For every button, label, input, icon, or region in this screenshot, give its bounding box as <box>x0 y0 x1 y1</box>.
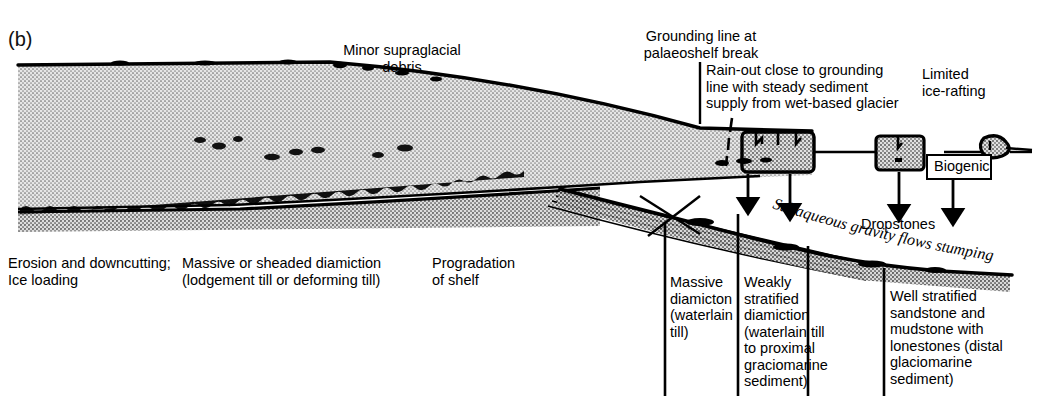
iceberg-mid <box>876 136 924 170</box>
label-biogenic: Biogenic <box>934 158 990 175</box>
facies-column-well-stratified: Well stratified sandstone and mudstone w… <box>890 288 1040 387</box>
figure-canvas: Subaqueous gravity flows stumping (b) Mi… <box>0 0 1043 420</box>
label-erosion-downcutting: Erosion and downcutting; Ice loading <box>8 255 171 288</box>
facies-column-weakly-stratified: Weakly stratified diamiction (waterlain … <box>744 274 814 390</box>
label-rainout: Rain-out close to grounding line with st… <box>706 62 899 112</box>
label-dropstones: Dropstones <box>861 216 935 233</box>
label-grounding-line: Grounding line at palaeoshelf break <box>608 28 794 61</box>
label-massive-sheaded-diamiction: Massive or sheaded diamiction (lodgement… <box>182 255 381 288</box>
label-supraglacial-debris: Minor supraglacial debris <box>322 42 482 75</box>
facies-column-massive-diamicton: Massive diamicton (waterlain till) <box>670 274 736 340</box>
label-progradation-of-shelf: Progradation of shelf <box>432 255 515 288</box>
floating-ice-tongue <box>742 132 814 172</box>
label-limited-ice-rafting: Limited ice-rafting <box>922 66 986 99</box>
panel-label: (b) <box>8 28 32 51</box>
